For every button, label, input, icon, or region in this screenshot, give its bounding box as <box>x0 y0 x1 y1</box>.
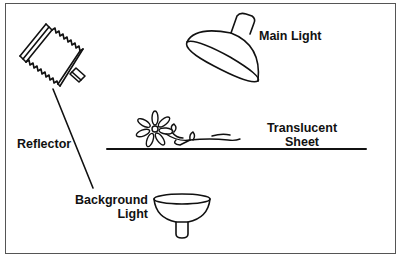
background-light-label-line2: Light <box>68 207 148 221</box>
background-light-icon <box>154 194 210 238</box>
flower-subject-icon <box>135 111 240 148</box>
reflector-icon <box>20 24 93 188</box>
main-light-label: Main Light <box>259 29 322 43</box>
translucent-sheet-label: Translucent Sheet <box>262 121 342 149</box>
translucent-sheet-label-line1: Translucent <box>262 121 342 135</box>
translucent-sheet-label-line2: Sheet <box>262 135 342 149</box>
reflector-label: Reflector <box>17 137 71 151</box>
background-light-label: Background Light <box>68 193 148 221</box>
background-light-label-line1: Background <box>68 193 148 207</box>
main-light-icon <box>187 13 259 81</box>
